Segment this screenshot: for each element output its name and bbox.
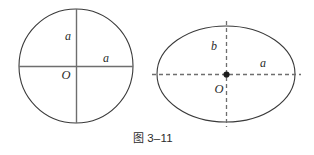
ellipse-semi-major-label: a: [260, 56, 266, 70]
circle-vertical-radius-label: a: [65, 29, 71, 43]
circle-figure-group: a a O: [19, 9, 133, 123]
circle-horizontal-radius-label: a: [103, 51, 109, 65]
figure-container: a a O b a O 图 3–11: [0, 0, 314, 155]
caption-prefix-glyph: 图: [133, 132, 144, 143]
circle-center-label: O: [61, 68, 70, 82]
ellipse-figure-group: b a O: [152, 21, 301, 127]
ellipse-semi-minor-label: b: [211, 39, 217, 53]
ellipse-center-dot: [223, 71, 229, 77]
ellipse-center-label: O: [214, 82, 223, 96]
figure-caption: 图 3–11: [133, 129, 173, 147]
caption-number: 3–11: [147, 132, 173, 144]
